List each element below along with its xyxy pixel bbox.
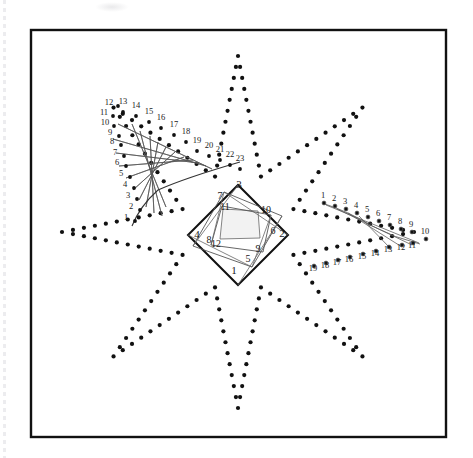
star-dot <box>130 342 134 346</box>
star-dot <box>93 236 97 240</box>
envelope-node-dot <box>132 186 136 190</box>
star-dot <box>118 345 122 349</box>
star-dot <box>236 406 240 410</box>
fan-node-dot <box>355 211 359 215</box>
star-dot <box>223 120 227 124</box>
star-dot <box>232 384 236 388</box>
star-dot <box>348 124 352 128</box>
star-dot <box>287 156 291 160</box>
square-vertex-label-7: 7 <box>218 190 223 201</box>
fan-label-8: 8 <box>398 216 402 226</box>
star-dot <box>244 362 248 366</box>
fan-label-12: 12 <box>397 242 406 252</box>
star-dot <box>342 118 346 122</box>
envelope-node-dot <box>195 149 199 153</box>
envelope-label-20: 20 <box>205 140 214 150</box>
star-dot <box>130 327 134 331</box>
fan-label-6: 6 <box>376 208 380 218</box>
star-dot <box>291 253 295 257</box>
square-vertex-label-2: 2 <box>279 227 285 239</box>
star-dot <box>348 336 352 340</box>
star-dot <box>291 207 295 211</box>
envelope-node-dot <box>218 158 222 162</box>
star-dot <box>104 222 108 226</box>
square-vertex-label-5: 5 <box>246 253 251 264</box>
fan-node-dot <box>322 201 326 205</box>
square-innermost <box>220 209 260 239</box>
envelope-node-dot <box>228 163 232 167</box>
star-dot <box>255 153 259 157</box>
star-dot <box>104 238 108 242</box>
star-dot <box>213 174 217 178</box>
star-dot <box>346 242 350 246</box>
fan-node-dot <box>377 219 381 223</box>
star-dot <box>329 308 333 312</box>
star-dot <box>167 317 171 321</box>
fan-label-7: 7 <box>387 212 391 222</box>
envelope-node-dot <box>172 133 176 137</box>
star-dot <box>324 247 328 251</box>
star-dot <box>139 336 143 340</box>
star-dot <box>305 317 309 321</box>
star-dot <box>357 240 361 244</box>
envelope-label-19: 19 <box>193 135 202 145</box>
fan-label-5: 5 <box>365 204 369 214</box>
star-dot <box>228 98 232 102</box>
fan-label-2: 2 <box>332 193 336 203</box>
envelope-node-dot <box>122 154 126 158</box>
star-dot <box>333 336 337 340</box>
fan-node-dot <box>344 207 348 211</box>
square-vertex-label-9: 9 <box>256 243 261 254</box>
envelope-label-7: 7 <box>113 147 117 157</box>
star-dot <box>137 317 141 321</box>
star-dot <box>316 290 320 294</box>
star-dot <box>342 327 346 331</box>
star-dot <box>346 217 350 221</box>
star-dot <box>93 224 97 228</box>
star-dot <box>287 304 291 308</box>
envelope-node-dot <box>124 164 128 168</box>
star-dot <box>234 65 238 69</box>
envelope-node-dot <box>147 120 151 124</box>
fan-label-13: 13 <box>384 244 393 254</box>
envelope-node-dot <box>207 154 211 158</box>
star-dot <box>162 179 166 183</box>
star-dot <box>248 120 252 124</box>
star-dot <box>296 310 300 314</box>
envelope-node-dot <box>159 126 163 130</box>
star-dot <box>174 198 178 202</box>
star-dot <box>155 290 159 294</box>
star-dot <box>238 395 242 399</box>
envelope-label-2: 2 <box>129 201 133 211</box>
star-dot <box>240 76 244 80</box>
envelope-label-22: 22 <box>226 149 235 159</box>
envelope-label-18: 18 <box>182 126 191 136</box>
envelope-label-6: 6 <box>115 157 119 167</box>
envelope-label-21: 21 <box>216 144 225 154</box>
star-dot <box>354 115 358 119</box>
envelope-label-12: 12 <box>105 97 114 107</box>
star-dot <box>170 251 174 255</box>
fan-label-14: 14 <box>371 248 380 258</box>
star-dot <box>223 340 227 344</box>
star-dot <box>82 226 86 230</box>
envelope-label-11: 11 <box>100 107 108 117</box>
star-dot <box>124 336 128 340</box>
fan-label-9: 9 <box>409 219 413 229</box>
envelope-node-dot <box>112 124 116 128</box>
star-dot <box>225 351 229 355</box>
star-dot <box>257 296 261 300</box>
star-dot <box>167 143 171 147</box>
star-dot <box>221 329 225 333</box>
envelope-label-10: 10 <box>101 117 110 127</box>
star-dot <box>302 251 306 255</box>
star-dot <box>180 253 184 257</box>
star-dot <box>148 131 152 135</box>
square-vertex-label-10: 10 <box>261 204 271 215</box>
envelope-label-23: 23 <box>236 153 245 163</box>
figure-page: 1234567891011121314151617181920212223 12… <box>0 0 473 458</box>
star-dot <box>259 174 263 178</box>
star-dot <box>240 384 244 388</box>
star-dot <box>277 298 281 302</box>
star-dot <box>335 245 339 249</box>
